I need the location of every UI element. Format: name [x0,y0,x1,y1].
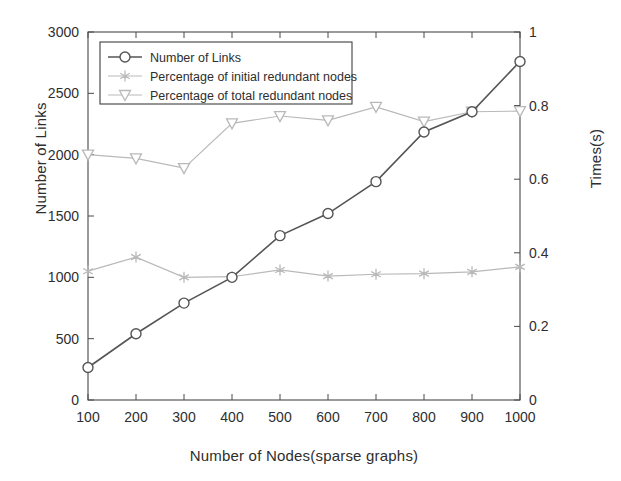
series-line-2 [83,252,525,283]
legend-item-label: Percentage of total redundant nodes [150,89,352,103]
svg-text:1000: 1000 [504,409,535,425]
svg-text:0: 0 [71,392,79,408]
svg-text:0.8: 0.8 [529,98,549,114]
svg-text:700: 700 [364,409,388,425]
svg-text:600: 600 [316,409,340,425]
svg-text:0.6: 0.6 [529,171,549,187]
circle-marker [120,52,130,62]
svg-text:1: 1 [529,24,537,40]
chart-legend[interactable]: Number of LinksPercentage of initial red… [100,42,357,104]
svg-text:2000: 2000 [48,147,79,163]
plot-area: 1002003004005006007008009001000050010001… [0,0,621,481]
y-axis-left-title: Number of Links [32,59,49,259]
series-line-3 [83,102,526,173]
svg-text:900: 900 [460,409,484,425]
svg-text:1500: 1500 [48,208,79,224]
legend-item-label: Percentage of initial redundant nodes [150,70,357,84]
x-axis-title: Number of Nodes(sparse graphs) [88,447,520,464]
y-axis-right-title: Times(s) [587,59,604,259]
svg-text:0: 0 [529,392,537,408]
svg-text:500: 500 [268,409,292,425]
svg-text:3000: 3000 [48,24,79,40]
svg-text:1000: 1000 [48,269,79,285]
svg-text:200: 200 [124,409,148,425]
svg-text:300: 300 [172,409,196,425]
chart-figure: Number of Links Times(s) Number of Nodes… [0,0,621,481]
svg-text:800: 800 [412,409,436,425]
svg-text:400: 400 [220,409,244,425]
svg-text:0.2: 0.2 [529,318,549,334]
svg-text:100: 100 [76,409,100,425]
svg-text:500: 500 [56,331,80,347]
svg-text:0.4: 0.4 [529,245,549,261]
svg-text:2500: 2500 [48,85,79,101]
legend-item-label: Number of Links [150,51,241,65]
